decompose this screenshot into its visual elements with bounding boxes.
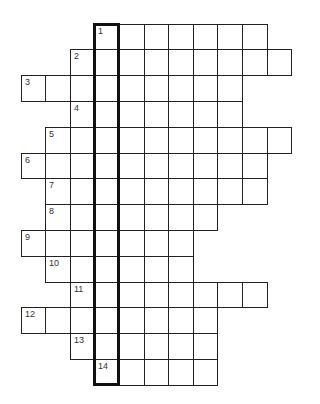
grid-cell[interactable] — [193, 307, 218, 334]
grid-cell[interactable] — [242, 127, 268, 154]
grid-cell[interactable] — [168, 49, 194, 76]
grid-cell[interactable] — [119, 333, 145, 360]
grid-cell[interactable] — [70, 230, 95, 257]
grid-cell[interactable] — [119, 75, 145, 102]
grid-cell[interactable] — [168, 75, 194, 102]
grid-cell[interactable] — [242, 153, 268, 179]
grid-cell[interactable]: 3 — [21, 75, 46, 102]
grid-cell[interactable] — [242, 49, 268, 76]
grid-cell[interactable] — [193, 101, 218, 128]
grid-cell[interactable]: 12 — [21, 307, 46, 334]
grid-cell[interactable] — [70, 307, 95, 334]
grid-cell[interactable] — [193, 75, 218, 102]
grid-cell[interactable] — [217, 282, 243, 308]
grid-cell[interactable] — [193, 178, 218, 205]
grid-cell[interactable] — [242, 282, 268, 308]
grid-cell[interactable] — [144, 101, 169, 128]
grid-cell[interactable] — [168, 359, 194, 386]
grid-cell[interactable]: 2 — [70, 49, 95, 76]
grid-cell[interactable] — [168, 307, 194, 334]
grid-cell[interactable] — [168, 204, 194, 231]
grid-cell[interactable] — [119, 230, 145, 257]
grid-cell[interactable] — [193, 24, 218, 50]
grid-cell[interactable] — [70, 127, 95, 154]
grid-cell[interactable]: 1 — [94, 24, 120, 50]
grid-cell[interactable] — [94, 307, 120, 334]
grid-cell[interactable] — [168, 230, 194, 257]
grid-cell[interactable] — [94, 75, 120, 102]
grid-cell[interactable] — [144, 307, 169, 334]
grid-cell[interactable] — [144, 153, 169, 179]
grid-cell[interactable] — [94, 49, 120, 76]
grid-cell[interactable] — [70, 204, 95, 231]
grid-cell[interactable]: 5 — [45, 127, 71, 154]
grid-cell[interactable]: 6 — [21, 153, 46, 179]
grid-cell[interactable] — [119, 24, 145, 50]
grid-cell[interactable] — [144, 282, 169, 308]
grid-cell[interactable]: 11 — [70, 282, 95, 308]
grid-cell[interactable] — [144, 256, 169, 283]
grid-cell[interactable] — [144, 230, 169, 257]
grid-cell[interactable] — [168, 256, 194, 283]
grid-cell[interactable] — [242, 24, 268, 50]
grid-cell[interactable] — [168, 178, 194, 205]
grid-cell[interactable] — [119, 101, 145, 128]
grid-cell[interactable] — [119, 256, 145, 283]
grid-cell[interactable] — [70, 75, 95, 102]
grid-cell[interactable] — [217, 101, 243, 128]
grid-cell[interactable] — [168, 101, 194, 128]
grid-cell[interactable] — [94, 153, 120, 179]
grid-cell[interactable] — [168, 333, 194, 360]
grid-cell[interactable]: 13 — [70, 333, 95, 360]
grid-cell[interactable] — [94, 204, 120, 231]
grid-cell[interactable] — [144, 204, 169, 231]
grid-cell[interactable] — [217, 178, 243, 205]
grid-cell[interactable] — [144, 75, 169, 102]
grid-cell[interactable] — [94, 256, 120, 283]
grid-cell[interactable] — [70, 178, 95, 205]
grid-cell[interactable]: 8 — [45, 204, 71, 231]
grid-cell[interactable] — [94, 178, 120, 205]
grid-cell[interactable] — [94, 127, 120, 154]
grid-cell[interactable] — [94, 282, 120, 308]
grid-cell[interactable] — [94, 333, 120, 360]
grid-cell[interactable] — [119, 204, 145, 231]
grid-cell[interactable] — [217, 127, 243, 154]
grid-cell[interactable] — [168, 282, 194, 308]
grid-cell[interactable] — [144, 24, 169, 50]
grid-cell[interactable] — [267, 49, 292, 76]
grid-cell[interactable] — [119, 49, 145, 76]
grid-cell[interactable] — [70, 256, 95, 283]
grid-cell[interactable] — [144, 333, 169, 360]
grid-cell[interactable] — [217, 153, 243, 179]
grid-cell[interactable] — [168, 127, 194, 154]
grid-cell[interactable]: 7 — [45, 178, 71, 205]
grid-cell[interactable] — [193, 49, 218, 76]
grid-cell[interactable] — [217, 49, 243, 76]
grid-cell[interactable] — [267, 127, 292, 154]
grid-cell[interactable] — [45, 230, 71, 257]
grid-cell[interactable]: 14 — [94, 359, 120, 386]
grid-cell[interactable] — [94, 101, 120, 128]
grid-cell[interactable] — [45, 307, 71, 334]
grid-cell[interactable] — [217, 75, 243, 102]
grid-cell[interactable] — [193, 204, 218, 231]
grid-cell[interactable] — [193, 127, 218, 154]
grid-cell[interactable]: 10 — [45, 256, 71, 283]
grid-cell[interactable] — [119, 307, 145, 334]
grid-cell[interactable] — [45, 153, 71, 179]
grid-cell[interactable] — [119, 127, 145, 154]
grid-cell[interactable] — [70, 153, 95, 179]
grid-cell[interactable] — [119, 282, 145, 308]
grid-cell[interactable] — [193, 282, 218, 308]
grid-cell[interactable] — [144, 49, 169, 76]
grid-cell[interactable] — [119, 359, 145, 386]
grid-cell[interactable] — [144, 178, 169, 205]
grid-cell[interactable] — [193, 359, 218, 386]
grid-cell[interactable] — [168, 153, 194, 179]
grid-cell[interactable] — [119, 178, 145, 205]
grid-cell[interactable] — [119, 153, 145, 179]
grid-cell[interactable] — [217, 24, 243, 50]
grid-cell[interactable] — [144, 359, 169, 386]
grid-cell[interactable]: 9 — [21, 230, 46, 257]
